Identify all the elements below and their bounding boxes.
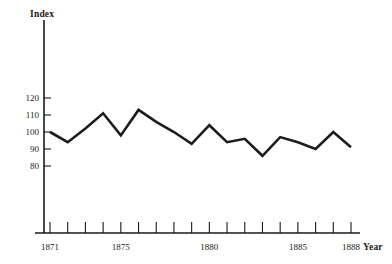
x-tick-label: 1871	[41, 242, 59, 252]
y-tick-label: 100	[26, 127, 40, 137]
x-tick-group	[50, 222, 351, 233]
line-chart: 8090100110120 18711875188018851888 Index…	[0, 0, 392, 264]
x-tick-label-group: 18711875188018851888	[41, 242, 361, 252]
x-tick-label: 1885	[289, 242, 308, 252]
y-tick-label: 110	[26, 110, 40, 120]
y-tick-label: 80	[30, 161, 40, 171]
y-tick-label: 90	[30, 144, 40, 154]
y-axis-title: Index	[30, 9, 54, 19]
axes	[35, 20, 360, 233]
x-axis-title: Year	[363, 242, 383, 252]
x-tick-label: 1888	[342, 242, 361, 252]
chart-canvas: 8090100110120 18711875188018851888 Index…	[0, 0, 392, 264]
x-tick-label: 1880	[200, 242, 219, 252]
x-tick-label: 1875	[112, 242, 131, 252]
y-tick-group	[44, 98, 51, 166]
y-tick-label-group: 8090100110120	[26, 93, 40, 171]
y-tick-label: 120	[26, 93, 40, 103]
index-series-line	[50, 110, 351, 156]
